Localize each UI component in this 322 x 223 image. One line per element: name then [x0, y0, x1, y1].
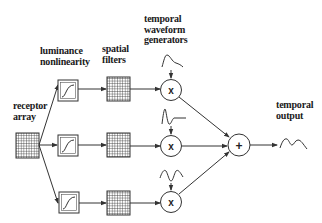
spatial-filter-1: [107, 77, 130, 101]
label-line: output: [276, 111, 313, 122]
receptor-array-label: receptor array: [13, 101, 47, 122]
spatial-filter-3: [107, 191, 130, 215]
multiplier-node-2: x: [161, 136, 182, 157]
label-line: array: [13, 112, 47, 123]
nonlinearity-box-2: [58, 135, 78, 156]
temporal-output-waveform: [280, 139, 307, 149]
nonlinearity-box-1: [58, 80, 78, 101]
visual-pathway-model-diagram: x x x + receptor array: [0, 0, 322, 223]
receptor-array-grid: [16, 133, 39, 158]
spatial-filters-label: spatial filters: [102, 44, 129, 65]
nonlinearity-to-filter-arrows: [78, 89, 106, 203]
label-line: receptor: [13, 101, 47, 112]
label-line: filters: [102, 55, 129, 66]
multiplier-to-sum-arrows: [179, 97, 229, 194]
multiplier-node-1: x: [161, 80, 182, 101]
temporal-output-label: temporal output: [276, 100, 313, 121]
filter-to-multiplier-arrows: [130, 89, 160, 203]
sum-symbol: +: [235, 139, 242, 153]
nonlinearity-box-3: [59, 192, 79, 213]
label-line: luminance: [40, 46, 90, 57]
label-line: nonlinearity: [40, 57, 90, 68]
multiplier-node-3: x: [161, 192, 182, 213]
multiply-symbol: x: [168, 141, 174, 152]
temporal-waveform-2: [162, 109, 186, 134]
luminance-nonlinearity-label: luminance nonlinearity: [40, 46, 90, 67]
label-line: temporal: [276, 100, 313, 111]
label-line: spatial: [102, 44, 129, 55]
temporal-waveform-3: [160, 170, 183, 190]
spatial-filter-2: [107, 133, 130, 157]
label-line: temporal: [144, 14, 188, 25]
sum-node: +: [228, 134, 250, 156]
multiply-symbol: x: [168, 85, 174, 96]
temporal-waveform-generators-label: temporal waveform generators: [144, 14, 188, 46]
temporal-waveform-1: [162, 55, 183, 78]
label-line: generators: [144, 35, 188, 46]
multiply-symbol: x: [168, 197, 174, 208]
